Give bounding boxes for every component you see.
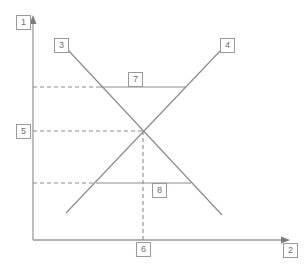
y-axis-label: 1 bbox=[16, 15, 31, 30]
price-lower-label: 8 bbox=[152, 183, 167, 198]
dashed-guides-group bbox=[33, 87, 143, 240]
supply-demand-diagram: 1 2 3 4 5 6 7 8 bbox=[0, 0, 306, 269]
price-equilibrium-label: 5 bbox=[16, 124, 31, 139]
x-axis-label: 2 bbox=[283, 243, 298, 258]
downward-sloping-curve bbox=[68, 50, 222, 215]
curves-group bbox=[66, 50, 222, 215]
curve-up-label: 4 bbox=[220, 38, 235, 53]
graph-canvas bbox=[0, 0, 306, 269]
curve-down-label: 3 bbox=[54, 38, 69, 53]
price-upper-label: 7 bbox=[128, 72, 143, 87]
quantity-equilibrium-label: 6 bbox=[136, 242, 151, 257]
